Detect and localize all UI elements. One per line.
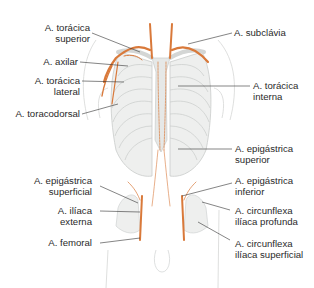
label-a-subclavia: A. subclávia <box>234 27 286 38</box>
label-a-epigastrica-superior: A. epigástrica superior <box>235 143 293 165</box>
label-a-iliaca-externa: A. ilíaca externa <box>58 205 92 227</box>
label-line: A. circunflexa <box>235 205 298 216</box>
label-a-toracica-superior: A. torácica superior <box>45 22 90 44</box>
label-line: A. subclávia <box>234 27 286 38</box>
label-line: superior <box>45 33 90 44</box>
rib-cage <box>111 50 211 176</box>
label-line: A. ilíaca <box>58 205 92 216</box>
label-line: inferior <box>235 186 293 197</box>
label-line: lateral <box>35 86 80 97</box>
label-line: ilíaca superficial <box>235 249 303 260</box>
label-a-epigastrica-superficial: A. epigástrica superficial <box>34 175 92 197</box>
label-a-circunflexa-iliaca-profunda: A. circunflexa ilíaca profunda <box>235 205 298 227</box>
label-line: A. circunflexa <box>235 238 303 249</box>
label-a-toracica-lateral: A. torácica lateral <box>35 75 80 97</box>
label-line: superficial <box>34 186 92 197</box>
label-a-femoral: A. femoral <box>48 237 92 248</box>
pelvis <box>116 195 208 272</box>
label-line: A. epigástrica <box>235 143 293 154</box>
label-line: superior <box>235 154 293 165</box>
label-line: A. axilar <box>43 56 78 67</box>
label-line: ilíaca profunda <box>235 216 298 227</box>
label-line: externa <box>58 216 92 227</box>
label-a-epigastrica-inferior: A. epigástrica inferior <box>235 175 293 197</box>
label-line: A. epigástrica <box>34 175 92 186</box>
label-a-circunflexa-iliaca-superficial: A. circunflexa ilíaca superficial <box>235 238 303 260</box>
label-line: A. femoral <box>48 237 92 248</box>
label-line: A. torácica <box>253 80 298 91</box>
label-line: interna <box>253 91 298 102</box>
label-a-toracica-interna: A. torácica interna <box>253 80 298 102</box>
label-line: A. toracodorsal <box>15 108 80 119</box>
label-a-toracodorsal: A. toracodorsal <box>15 108 80 119</box>
label-a-axilar: A. axilar <box>43 56 78 67</box>
label-line: A. torácica <box>45 22 90 33</box>
label-line: A. epigástrica <box>235 175 293 186</box>
label-line: A. torácica <box>35 75 80 86</box>
